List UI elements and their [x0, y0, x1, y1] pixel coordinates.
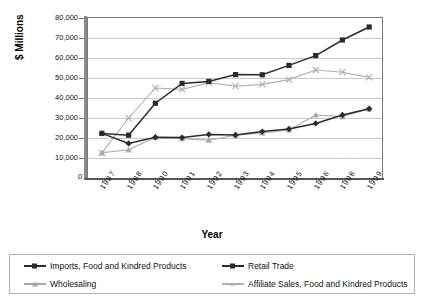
legend-label: Retail Trade	[248, 261, 294, 271]
y-axis-tick-label: 80,000	[34, 14, 78, 22]
legend-label: Affiliate Sales, Food and Kindred Produc…	[248, 279, 408, 289]
y-axis-tick	[79, 138, 84, 139]
chart-legend: Imports, Food and Kindred ProductsRetail…	[9, 254, 415, 294]
chart-container: 80,00070,00060,00050,00040,00030,00020,0…	[0, 0, 424, 302]
legend-row: Imports, Food and Kindred ProductsRetail…	[10, 257, 414, 275]
triangle-marker	[32, 282, 38, 287]
y-axis-tick-label: 60,000	[34, 54, 78, 62]
y-axis-tick	[79, 78, 84, 79]
legend-item[interactable]: Wholesaling	[24, 275, 96, 293]
gridline	[88, 118, 382, 119]
legend-item[interactable]: Retail Trade	[222, 257, 294, 275]
y-axis-tick	[79, 58, 84, 59]
y-axis-tick	[79, 18, 84, 19]
legend-label: Wholesaling	[50, 279, 96, 289]
x-axis-title: Year	[0, 229, 424, 240]
gridline	[88, 138, 382, 139]
legend-label: Imports, Food and Kindred Products	[50, 261, 187, 271]
gridline	[88, 98, 382, 99]
y-axis-tick	[79, 38, 84, 39]
gridline	[88, 38, 382, 39]
legend-line-swatch	[222, 265, 244, 267]
y-axis-line	[84, 16, 87, 180]
y-axis-title: $ Millions	[14, 14, 25, 60]
gridline	[88, 58, 382, 59]
y-axis-tick-label: 50,000	[34, 74, 78, 82]
y-axis-tick-label: 20,000	[34, 134, 78, 142]
diamond-marker	[32, 264, 37, 269]
y-axis-tick	[79, 158, 84, 159]
y-axis-tick	[79, 98, 84, 99]
chart-title-clipped	[0, 0, 424, 6]
gridline	[88, 158, 382, 159]
square-marker	[230, 264, 235, 269]
y-axis-tick	[79, 118, 84, 119]
legend-item[interactable]: ×Affiliate Sales, Food and Kindred Produ…	[222, 275, 408, 293]
legend-item[interactable]: Imports, Food and Kindred Products	[24, 257, 187, 275]
y-axis-tick-label: 70,000	[34, 34, 78, 42]
legend-row: Wholesaling×Affiliate Sales, Food and Ki…	[10, 275, 414, 293]
y-axis-zero-label: 0	[78, 172, 82, 181]
gridline	[88, 78, 382, 79]
legend-line-swatch: ×	[222, 283, 244, 285]
y-axis-tick-label: 10,000	[34, 154, 78, 162]
x-marker: ×	[230, 282, 235, 287]
legend-line-swatch	[24, 283, 46, 285]
plot-area	[87, 17, 383, 179]
legend-line-swatch	[24, 265, 46, 267]
y-axis-tick-label: 40,000	[34, 94, 78, 102]
y-axis-tick-label: 30,000	[34, 114, 78, 122]
